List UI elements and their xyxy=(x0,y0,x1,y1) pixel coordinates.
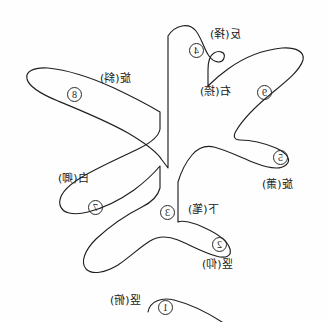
annotation-label-you-na: 右(捺) xyxy=(200,85,231,98)
stroke-marker-2[interactable]: 2 xyxy=(212,237,227,252)
stroke-number-8: 8 xyxy=(67,87,82,102)
stroke-marker-3[interactable]: 3 xyxy=(160,205,175,220)
stroke-number-3: 3 xyxy=(160,205,175,220)
stroke-marker-1[interactable]: 1 xyxy=(158,300,173,315)
stroke-number-2: 2 xyxy=(212,237,227,252)
stroke-number-9: 9 xyxy=(257,85,272,100)
stroke-number-4: 4 xyxy=(189,43,204,58)
annotation-label-shu-yang: 竖(仰) xyxy=(202,258,233,271)
stroke-marker-5[interactable]: 5 xyxy=(273,150,288,165)
stroke-number-5: 5 xyxy=(273,150,288,165)
annotation-label-xia-bi: 下(笔) xyxy=(188,203,219,216)
stroke-marker-4[interactable]: 4 xyxy=(189,43,204,58)
outline-main-path xyxy=(27,26,304,273)
stroke-marker-7[interactable]: 7 xyxy=(88,200,103,215)
annotation-label-bai-qing: 白(卿) xyxy=(58,172,89,185)
annotation-label-shu-fu: 竖(俯) xyxy=(110,294,141,307)
annotation-label-fan-ze: 反(择) xyxy=(210,28,241,41)
stroke-number-1: 1 xyxy=(158,300,173,315)
stroke-number-7: 7 xyxy=(88,200,103,215)
figure-canvas: 4 8 9 5 7 3 2 1 反(择) 右(捺) xyxy=(0,0,328,322)
stroke-marker-8[interactable]: 8 xyxy=(67,87,82,102)
annotation-label-xuan-xiao: 旋(萧) xyxy=(262,178,293,191)
stroke-marker-9[interactable]: 9 xyxy=(257,85,272,100)
annotation-label-xuan-xie: 旋(斜) xyxy=(100,72,131,85)
